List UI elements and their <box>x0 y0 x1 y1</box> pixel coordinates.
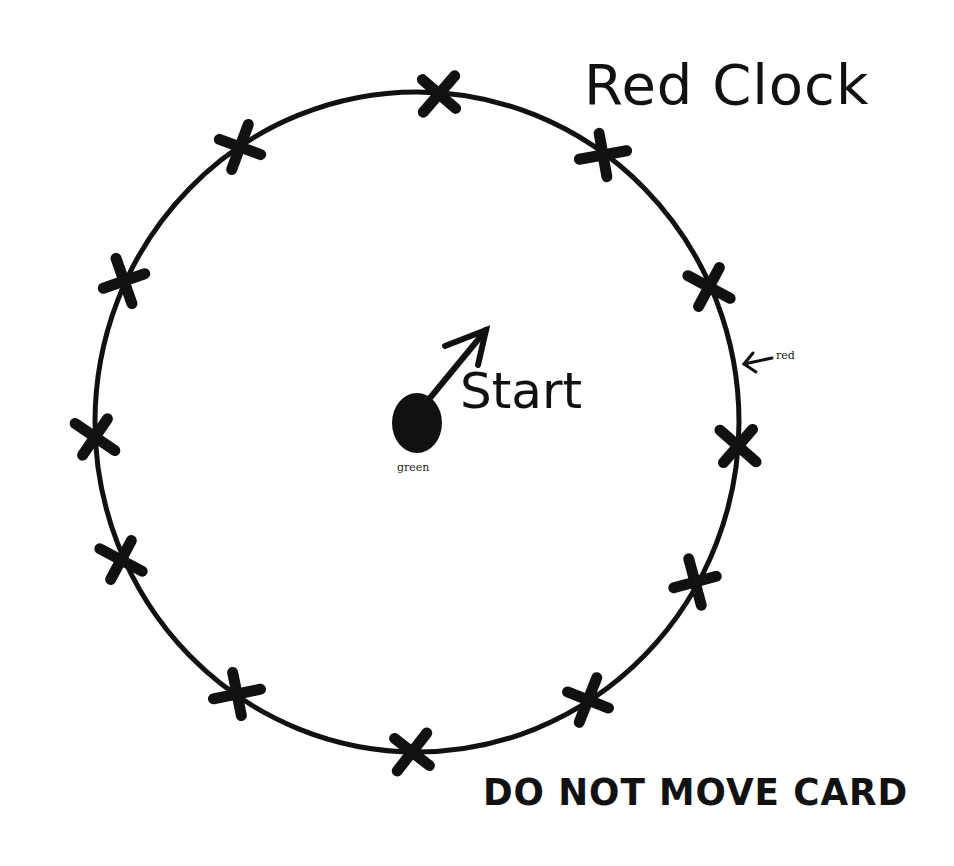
x-mark-icon <box>677 256 740 317</box>
x-mark-icon <box>559 670 617 731</box>
footer-warning: DO NOT MOVE CARD <box>483 770 908 814</box>
green-label: green <box>397 461 429 474</box>
x-mark-icon <box>209 668 265 721</box>
red-pointer-arrow-icon <box>744 353 772 372</box>
red-label: red <box>776 349 795 362</box>
x-mark-icon <box>668 553 723 611</box>
clock-diagram <box>0 0 954 866</box>
start-dot <box>392 393 442 453</box>
x-mark-icon <box>89 529 152 590</box>
start-label: Start <box>460 362 582 420</box>
page-title: Red Clock <box>584 52 869 117</box>
x-mark-icon <box>211 117 269 177</box>
x-mark-icon <box>95 251 152 311</box>
